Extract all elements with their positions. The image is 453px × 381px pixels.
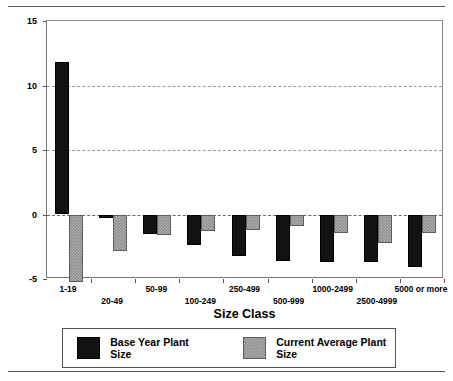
- bar-current-average-8: [422, 215, 436, 233]
- x-tick-label-0: 1-19: [60, 284, 77, 294]
- x-tick-label-3: 100-249: [185, 296, 216, 306]
- y-tick-mark--5: [43, 279, 47, 280]
- bar-base-year-5: [276, 215, 290, 261]
- x-tick-label-1: 20-49: [101, 296, 123, 306]
- x-tick-mark-6: [356, 279, 357, 283]
- x-tick-mark-1: [135, 279, 136, 283]
- bar-base-year-3: [187, 215, 201, 246]
- x-axis-label: Size Class: [46, 307, 443, 321]
- bar-current-average-4: [246, 215, 260, 230]
- bar-base-year-2: [143, 215, 157, 234]
- plot-area: -5051015: [46, 20, 443, 278]
- legend-swatch-base-year: [77, 337, 100, 359]
- y-tick-label--5: -5: [29, 274, 37, 284]
- gridline-10: [47, 86, 442, 87]
- gridline-5: [47, 150, 442, 151]
- y-tick-label-5: 5: [32, 145, 37, 155]
- y-tick-label-15: 15: [27, 16, 37, 26]
- x-tick-label-7: 2500-4999: [357, 296, 398, 306]
- legend-item-base-year: Base Year Plant Size: [77, 336, 201, 360]
- figure-bottom-rule: [8, 371, 445, 372]
- chart-legend: Base Year Plant Size Current Average Pla…: [62, 328, 396, 368]
- bar-base-year-6: [320, 215, 334, 263]
- y-tick-mark-5: [43, 150, 47, 151]
- x-tick-mark-4: [268, 279, 269, 283]
- y-tick-mark-0: [43, 215, 47, 216]
- x-tick-mark-3: [223, 279, 224, 283]
- figure-container: Mean Annual Rates, 1973 to 1993 -5051015…: [0, 0, 453, 381]
- y-tick-label-10: 10: [27, 81, 37, 91]
- bar-base-year-8: [408, 215, 422, 268]
- bar-base-year-1: [99, 215, 113, 219]
- bar-base-year-4: [232, 215, 246, 256]
- x-tick-mark-8: [444, 279, 445, 283]
- legend-label-base-year: Base Year Plant Size: [110, 336, 201, 360]
- bar-current-average-0: [69, 215, 83, 282]
- x-tick-label-4: 250-499: [229, 284, 260, 294]
- legend-item-current-average: Current Average Plant Size: [243, 336, 395, 360]
- legend-swatch-current-average: [243, 337, 266, 359]
- x-tick-mark-7: [400, 279, 401, 283]
- x-tick-label-5: 500-999: [273, 296, 304, 306]
- bar-current-average-6: [334, 215, 348, 233]
- x-tick-mark-0: [91, 279, 92, 283]
- legend-label-current-average: Current Average Plant Size: [276, 336, 395, 360]
- bar-current-average-2: [157, 215, 171, 236]
- x-tick-mark-5: [312, 279, 313, 283]
- bar-current-average-7: [378, 215, 392, 243]
- x-tick-label-8: 5000 or more: [394, 284, 447, 294]
- bar-base-year-7: [364, 215, 378, 263]
- y-tick-mark-10: [43, 86, 47, 87]
- bar-base-year-0: [55, 62, 69, 214]
- bar-current-average-5: [290, 215, 304, 227]
- x-tick-mark-2: [179, 279, 180, 283]
- y-tick-mark-15: [43, 21, 47, 22]
- x-tick-label-2: 50-99: [145, 284, 167, 294]
- bar-current-average-3: [201, 215, 215, 232]
- x-tick-label-6: 1000-2499: [312, 284, 353, 294]
- figure-top-rule: [8, 6, 445, 7]
- bar-current-average-1: [113, 215, 127, 251]
- y-tick-label-0: 0: [32, 210, 37, 220]
